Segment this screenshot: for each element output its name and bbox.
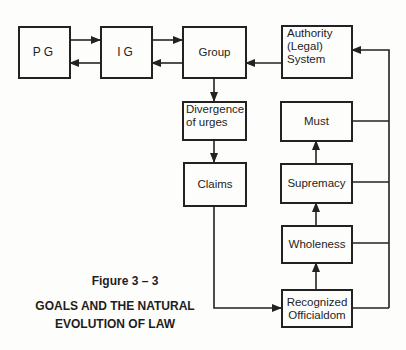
node-recognized-line1: Recognized	[287, 296, 348, 309]
node-supremacy: Supremacy	[280, 163, 353, 204]
node-pg: PG	[18, 26, 71, 79]
node-group: Group	[182, 26, 247, 79]
figure-title-line2: EVOLUTION OF LAW	[30, 317, 200, 331]
node-authority-legal-system: Authority (Legal) System	[281, 25, 353, 79]
node-authority-line1: Authority	[287, 27, 332, 40]
node-ig-label: IG	[117, 46, 136, 59]
node-divergence-of-urges: Divergence of urges	[182, 101, 247, 141]
figure-title-line1: GOALS AND THE NATURAL	[30, 299, 200, 313]
diagram-canvas: PG IG Group Authority (Legal) System Div…	[0, 0, 406, 350]
node-must: Must	[280, 101, 353, 142]
node-claims: Claims	[183, 162, 247, 207]
node-wholeness: Wholeness	[281, 225, 353, 264]
node-recognized-line2: Officialdom	[288, 309, 345, 322]
node-divergence-line1: Divergence	[186, 103, 244, 116]
node-authority-line3: System	[287, 53, 325, 66]
node-wholeness-label: Wholeness	[289, 238, 346, 251]
node-divergence-line2: of urges	[186, 116, 228, 129]
node-must-label: Must	[304, 115, 329, 128]
figure-label: Figure 3 – 3	[70, 274, 180, 288]
node-supremacy-label: Supremacy	[287, 177, 345, 190]
node-recognized-officialdom: Recognized Officialdom	[281, 289, 353, 328]
node-group-label: Group	[199, 46, 231, 59]
node-pg-label: PG	[33, 46, 56, 59]
node-ig: IG	[100, 26, 153, 79]
node-authority-line2: (Legal)	[287, 40, 323, 53]
node-claims-label: Claims	[197, 178, 232, 191]
